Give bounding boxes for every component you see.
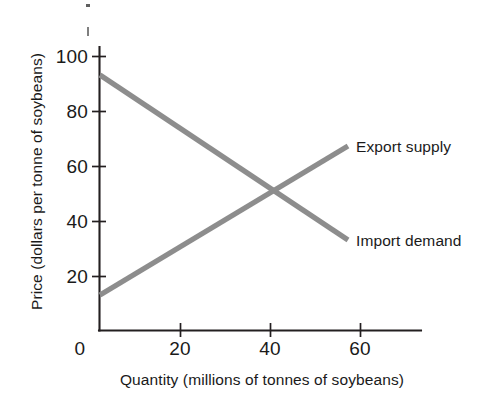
import-demand-line bbox=[100, 75, 348, 240]
y-axis-title: Price (dollars per tonne of soybeans) bbox=[28, 53, 45, 310]
y-tick-label-80: 80 bbox=[66, 101, 88, 122]
x-tick-label-20: 20 bbox=[169, 338, 191, 359]
y-tick-label-40: 40 bbox=[66, 211, 88, 232]
supply-demand-chart: 100 80 60 40 20 0 20 40 60 Export supply… bbox=[0, 0, 490, 408]
x-tick-label-40: 40 bbox=[259, 338, 281, 359]
chart-figure: 100 80 60 40 20 0 20 40 60 Export supply… bbox=[0, 0, 490, 408]
origin-label-zero: 0 bbox=[75, 338, 86, 359]
y-tick-label-20: 20 bbox=[66, 266, 88, 287]
export-supply-label: Export supply bbox=[356, 138, 451, 155]
x-tick-label-60: 60 bbox=[349, 338, 371, 359]
y-tick-label-100: 100 bbox=[56, 46, 88, 67]
import-demand-label: Import demand bbox=[356, 232, 462, 249]
y-tick-label-60: 60 bbox=[66, 156, 88, 177]
export-supply-line bbox=[100, 146, 348, 295]
x-axis-title: Quantity (millions of tonnes of soybeans… bbox=[120, 371, 404, 388]
